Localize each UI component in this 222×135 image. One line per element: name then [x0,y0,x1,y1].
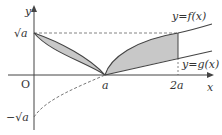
tick-label-neg-sqrt-a: −√a [6,111,29,124]
y-axis-label: y [24,5,32,18]
curve-dashed-lower [34,75,105,117]
tick-label-2a: 2a [169,79,184,92]
curve-f-label: y=f(x) [171,10,206,23]
tick-label-sqrt-a: √a [14,27,28,40]
curve-g-label: y=g(x) [181,58,219,71]
y-axis-arrow-icon [31,5,37,12]
x-axis-label: x [207,81,214,94]
origin-label: O [21,78,30,91]
graph-canvas: y x O a 2a √a −√a y=f(x) y=g(x) [0,0,222,135]
shaded-region-right [105,33,178,75]
x-axis-arrow-icon [207,72,214,78]
tick-label-a: a [102,79,109,92]
